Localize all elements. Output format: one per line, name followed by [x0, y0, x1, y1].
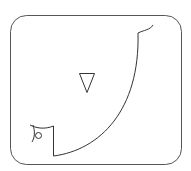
downward-triangle — [80, 74, 95, 93]
small-circle — [36, 133, 42, 139]
left-bracket-side — [32, 125, 34, 142]
left-bracket — [30, 125, 54, 156]
sketch-canvas — [0, 0, 191, 171]
rounded-frame — [11, 16, 182, 165]
top-hook — [138, 25, 153, 33]
large-curve — [54, 33, 139, 156]
